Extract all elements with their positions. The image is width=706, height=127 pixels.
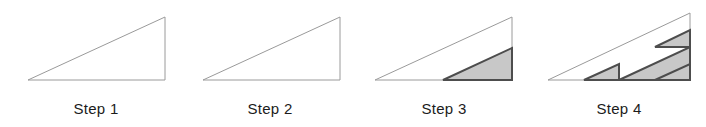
step-2-label: Step 2 xyxy=(247,100,292,117)
step-4-shaded-triangle-4 xyxy=(655,30,690,47)
figure-svg: Step 1Step 2Step 3Step 4 xyxy=(0,0,706,127)
figure-container: Step 1Step 2Step 3Step 4 xyxy=(0,0,706,127)
step-2-outline-triangle xyxy=(203,17,340,80)
step-3-label: Step 3 xyxy=(421,100,466,117)
step-4-label: Step 4 xyxy=(596,100,641,117)
step-1-label: Step 1 xyxy=(73,100,118,117)
step-4-group: Step 4 xyxy=(548,13,690,117)
step-1-outline-triangle xyxy=(28,17,165,80)
step-1-group: Step 1 xyxy=(28,17,165,117)
step-4-shaded-triangle-2 xyxy=(584,64,619,80)
step-3-group: Step 3 xyxy=(375,17,512,117)
step-3-shaded-triangle-1 xyxy=(443,48,512,80)
step-2-group: Step 2 xyxy=(203,17,340,117)
